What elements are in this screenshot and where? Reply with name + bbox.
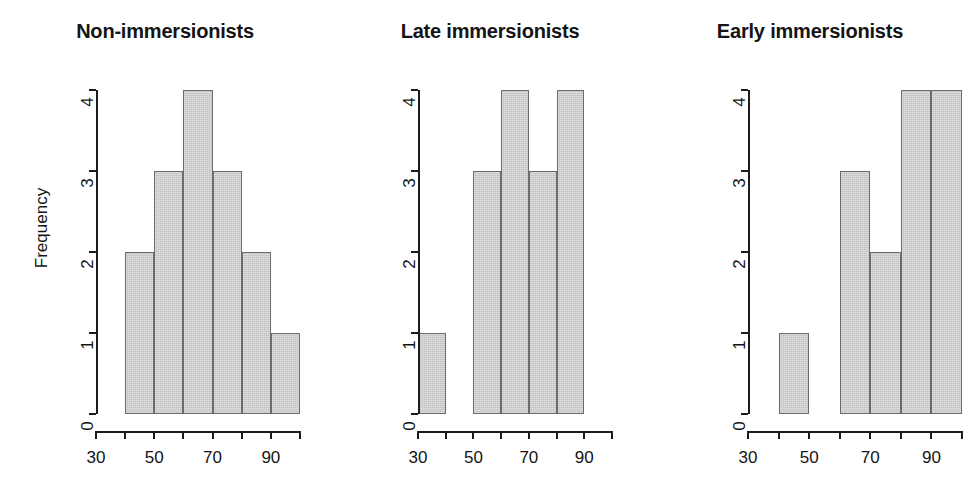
- y-axis-tick-label: 4: [400, 90, 420, 114]
- x-axis-tick-label: 30: [726, 448, 770, 468]
- x-axis-tick: [472, 431, 474, 439]
- y-axis-tick-label: 4: [730, 90, 750, 114]
- histogram-panel-2: Late immersionists0123430507090: [330, 0, 650, 493]
- x-axis-tick: [500, 431, 502, 439]
- x-axis-tick: [270, 431, 272, 439]
- x-axis-tick: [961, 431, 963, 439]
- y-axis-tick-label: 2: [78, 252, 98, 276]
- histogram-bar: [840, 171, 871, 414]
- x-axis-tick: [808, 431, 810, 439]
- x-axis-tick: [747, 431, 749, 439]
- x-axis-tick: [528, 431, 530, 439]
- x-axis-tick-label: 50: [787, 448, 831, 468]
- y-axis-tick-label: 2: [730, 252, 750, 276]
- x-axis-tick: [556, 431, 558, 439]
- x-axis-tick: [900, 431, 902, 439]
- histogram-panel-1: Non-immersionists01234Frequency30507090: [0, 0, 330, 493]
- histogram-bar: [931, 90, 962, 414]
- histogram-bar: [870, 252, 901, 414]
- y-axis-tick-label: 3: [730, 171, 750, 195]
- y-axis-tick-label: 1: [400, 333, 420, 357]
- histogram-bar: [213, 171, 242, 414]
- y-axis-tick-label: 3: [400, 171, 420, 195]
- panel-title: Non-immersionists: [0, 20, 330, 43]
- x-axis-tick: [445, 431, 447, 439]
- x-axis-tick-label: 50: [132, 448, 176, 468]
- histogram-bar: [242, 252, 271, 414]
- x-axis-tick: [611, 431, 613, 439]
- y-axis-tick-label: 3: [78, 171, 98, 195]
- x-axis-tick: [153, 431, 155, 439]
- panel-title: Early immersionists: [650, 20, 970, 43]
- y-axis-tick-label: 4: [78, 90, 98, 114]
- histogram-panel-3: Early immersionists0123430507090: [650, 0, 970, 493]
- x-axis-tick: [839, 431, 841, 439]
- x-axis-tick-label: 30: [74, 448, 118, 468]
- x-axis-tick-label: 70: [507, 448, 551, 468]
- histogram-bar: [183, 90, 212, 414]
- x-axis-tick: [124, 431, 126, 439]
- histogram-figure: Non-immersionists01234Frequency30507090L…: [0, 0, 970, 493]
- x-axis-tick: [930, 431, 932, 439]
- x-axis-tick: [95, 431, 97, 439]
- x-axis-tick: [583, 431, 585, 439]
- y-axis-tick-label: 2: [400, 252, 420, 276]
- histogram-bar: [529, 171, 557, 414]
- histogram-bar: [779, 333, 810, 414]
- x-axis-tick-label: 70: [191, 448, 235, 468]
- y-axis-tick-label: 1: [730, 333, 750, 357]
- x-axis-tick-label: 90: [249, 448, 293, 468]
- histogram-bar: [501, 90, 529, 414]
- histogram-bar: [901, 90, 932, 414]
- x-axis-tick: [869, 431, 871, 439]
- x-axis-tick: [241, 431, 243, 439]
- histogram-bar: [125, 252, 154, 414]
- histogram-bar: [271, 333, 300, 414]
- x-axis-tick-label: 90: [562, 448, 606, 468]
- x-axis-tick: [182, 431, 184, 439]
- x-axis-tick-label: 90: [909, 448, 953, 468]
- y-axis-tick-label: 1: [78, 333, 98, 357]
- x-axis-tick: [778, 431, 780, 439]
- x-axis-tick: [417, 431, 419, 439]
- histogram-bar: [557, 90, 585, 414]
- x-axis-tick: [299, 431, 301, 439]
- histogram-bar: [473, 171, 501, 414]
- panel-title: Late immersionists: [330, 20, 650, 43]
- y-axis-title: Frequency: [32, 180, 52, 324]
- histogram-bar: [154, 171, 183, 414]
- x-axis-tick: [212, 431, 214, 439]
- x-axis-tick-label: 70: [848, 448, 892, 468]
- x-axis-tick-label: 50: [451, 448, 495, 468]
- x-axis-tick-label: 30: [396, 448, 440, 468]
- histogram-bar: [418, 333, 446, 414]
